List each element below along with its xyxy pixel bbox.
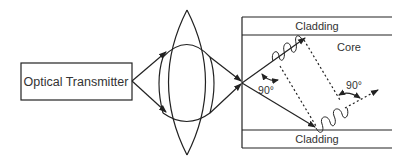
- ray-upper-in-core: [242, 38, 305, 83]
- wavefront-lines: [280, 40, 378, 126]
- lens: [159, 10, 214, 155]
- ray-upper-to-fiber: [210, 57, 241, 81]
- angle-label-right: 90°: [346, 79, 362, 91]
- angle-arc-right: [339, 93, 360, 98]
- core-label: Core: [337, 41, 361, 53]
- angle-label-left: 90°: [258, 84, 274, 96]
- lens-lower-arc: [163, 113, 210, 122]
- lens-right-surface: [187, 10, 206, 155]
- top-cladding-label: Cladding: [295, 20, 338, 32]
- ray-lower-to-fiber: [210, 84, 241, 113]
- optical-transmitter-box: Optical Transmitter: [21, 63, 132, 100]
- bottom-cladding-label: Cladding: [295, 133, 338, 145]
- angle-arc-left: [262, 74, 278, 80]
- lens-left-surface: [169, 10, 188, 155]
- wave-packet-lower: [316, 108, 348, 132]
- optical-fiber-diagram: Optical Transmitter Cladding Cladding Co…: [0, 0, 412, 163]
- wave-packet-upper: [272, 36, 302, 61]
- transmitter-label: Optical Transmitter: [24, 75, 129, 89]
- ray-lower-to-lens: [132, 81, 166, 112]
- optical-fiber: [242, 17, 392, 148]
